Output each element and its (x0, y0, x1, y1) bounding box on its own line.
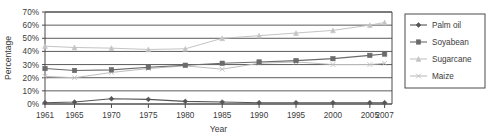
data-point-marker (368, 53, 372, 57)
x-tick-label: 2007 (376, 111, 395, 120)
data-point-marker (382, 52, 386, 56)
data-point-marker (183, 99, 188, 104)
y-tick-label: 10% (23, 87, 39, 96)
series-line (45, 23, 385, 50)
data-point-marker (257, 60, 261, 64)
data-point-marker (109, 96, 114, 101)
y-tick-label: 20% (23, 74, 39, 83)
y-tick-label: 30% (23, 61, 39, 70)
y-tick-label: 40% (23, 47, 39, 56)
x-tick-label: 1965 (65, 111, 84, 120)
line-chart: 70%60%50%40%30%20%10%0% 1961196519701975… (0, 0, 488, 139)
legend-label: Maize (432, 72, 454, 81)
x-tick-label: 1980 (176, 111, 195, 120)
x-tick-label: 2000 (324, 111, 343, 120)
data-point-marker (109, 68, 113, 72)
x-tick-label: 1990 (250, 111, 269, 120)
x-axis-title: Year (210, 124, 228, 134)
legend-label: Palm oil (432, 21, 461, 30)
x-tick-label: 1961 (36, 111, 55, 120)
y-axis-title: Percentage (3, 36, 13, 80)
y-axis-ticks: 70%60%50%40%30%20%10%0% (23, 8, 45, 109)
data-point-marker (416, 40, 420, 44)
y-tick-label: 0% (27, 100, 39, 109)
y-tick-label: 60% (23, 21, 39, 30)
y-tick-label: 70% (23, 8, 39, 17)
data-point-marker (294, 58, 298, 62)
y-tick-label: 50% (23, 34, 39, 43)
data-point-marker (43, 66, 47, 70)
legend: Palm oilSoyabeanSugarcaneMaize (405, 14, 485, 88)
data-point-marker (220, 61, 224, 65)
x-tick-label: 1985 (213, 111, 232, 120)
x-tick-label: 1975 (139, 111, 158, 120)
data-point-marker (72, 68, 76, 72)
data-point-marker (146, 97, 151, 102)
x-axis-ticks: 1961196519701975198019851990199520002005… (36, 104, 394, 120)
chart-canvas: 70%60%50%40%30%20%10%0% 1961196519701975… (0, 0, 488, 139)
data-point-marker (146, 65, 150, 69)
data-series-group (43, 20, 387, 105)
x-tick-label: 1995 (287, 111, 306, 120)
y-axis-title-text: Percentage (3, 36, 13, 80)
legend-label: Sugarcane (432, 55, 472, 64)
data-point-marker (183, 63, 187, 67)
x-axis-title-text: Year (210, 124, 228, 134)
x-tick-label: 1970 (102, 111, 121, 120)
legend-label: Soyabean (432, 38, 469, 47)
data-point-marker (331, 56, 335, 60)
